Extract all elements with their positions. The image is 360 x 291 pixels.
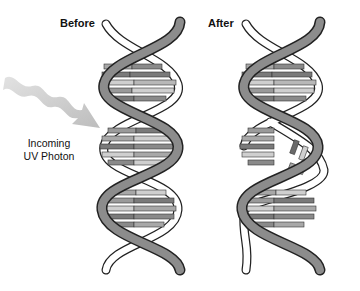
uv-photon-label-line2: UV Photon (14, 150, 84, 163)
uv-photon-label-line1: Incoming (14, 137, 84, 150)
panel-title-before: Before (60, 17, 95, 29)
panel-title-after: After (208, 17, 234, 29)
uv-photon-label: Incoming UV Photon (14, 137, 84, 163)
dna-helix-before (100, 22, 180, 270)
uv-photon-arrow-icon (3, 77, 100, 128)
dna-helix-after (240, 22, 324, 270)
